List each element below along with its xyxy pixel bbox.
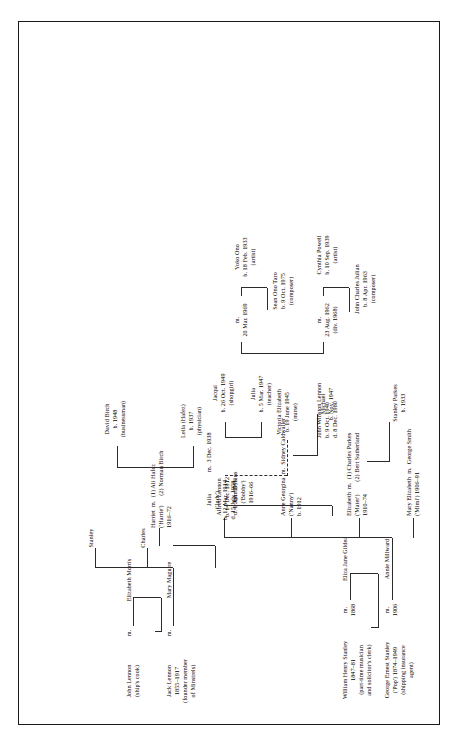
connector (241, 353, 323, 354)
person-leila-hafez: Leila (Hafez) b. 1937 (physician) (179, 390, 203, 452)
connector-sibling-spine (224, 537, 392, 538)
person-julia-birch: Julia b. 5 Mar. 1947 (teacher) (249, 364, 273, 424)
person-george-ernest-stanley: George Ernest Stanley ('Pop') 1874–1949 … (383, 622, 415, 718)
person-stanley-parkes: Stanley Parkes b. 1933 (391, 368, 407, 438)
person-mary-maguire: Mary Maguire (165, 540, 173, 620)
connector (350, 573, 378, 574)
person-annie-millward: Annie Millward (383, 522, 391, 596)
connector (241, 287, 267, 288)
connector (291, 518, 292, 538)
connector (117, 467, 193, 468)
chart-canvas: Family Tree William Henry Stanley 1847–8… (0, 0, 458, 747)
connector (371, 627, 378, 628)
connector (133, 597, 161, 598)
person-eliza-jane-gildea: Eliza Jane Gildea (341, 522, 349, 596)
connector (267, 288, 268, 310)
person-cynthia-powell: Cynthia Powell b. 10 Sep. 1939 (artist) (315, 220, 339, 290)
connector-dashed (225, 475, 287, 476)
connector (161, 598, 162, 632)
person-jacqui: Jacqui b. 26 Oct. 1949 (shopgirl) (211, 362, 235, 424)
person-sean-ono-taro: Sean Ono Taro b. 9 Oct. 1975 (composer) (271, 250, 295, 332)
person-yoko-ono: Yoko Ono b. 18 Feb. 1933 (artist) (233, 224, 257, 290)
connector (389, 422, 390, 462)
person-mary-elizabeth-smith: Mary Elizabeth m. George Smith ('Mimi') … (405, 394, 421, 516)
connector (155, 631, 161, 632)
connector (349, 288, 350, 312)
connector (173, 568, 174, 626)
connector (359, 518, 360, 538)
connector (350, 574, 351, 600)
connector (147, 548, 148, 568)
connector (323, 288, 324, 296)
person-david-birch: David Birch b. 1948 (businessman) (103, 386, 127, 452)
connector-sibling-spine (95, 567, 173, 568)
person-elizabeth-parkes: Elizabeth m. (1) Charles Parkes ('Mater'… (345, 388, 369, 516)
person-william-henry-stanley: William Henry Stanley 1847–81 (part-time… (341, 624, 373, 716)
connector (215, 546, 216, 568)
chart-border: William Henry Stanley 1847–81 (part-time… (18, 21, 440, 725)
connector (225, 437, 261, 438)
connector (293, 455, 317, 456)
connector (392, 538, 393, 600)
person-john-lennon-ship-cook: John Lennon (ship's cook) (125, 646, 141, 716)
marriage-mark-2: m. (165, 626, 173, 640)
connector (173, 545, 215, 546)
connector (133, 598, 134, 626)
connector (367, 461, 389, 462)
julia-marriage-label: m. 3 Dec. 1938 (205, 432, 213, 472)
person-stanley: Stanley (87, 514, 95, 562)
person-jack-lennon: Jack Lennon 1855–1917 (founder member of… (165, 644, 197, 718)
marriage-mark-1: m. (125, 626, 133, 640)
connector (95, 548, 96, 568)
scanned-page: Family Tree William Henry Stanley 1847–8… (0, 0, 458, 747)
connector (159, 528, 160, 546)
marriage-yoko: m. 20 Mar. 1969 (233, 294, 249, 346)
connector (413, 518, 414, 538)
connector (323, 287, 349, 288)
person-john-charles-julian: John Charles Julian b. 8 Apr. 1963 (comp… (353, 246, 377, 332)
connector (378, 574, 379, 628)
person-elizabeth-morris: Elizabeth Morris (125, 540, 133, 620)
connector (332, 506, 333, 516)
connector (225, 422, 226, 438)
connector-to-john (224, 505, 332, 506)
marriage-cynthia: m. 23 Aug. 1962 (div. 1968) (315, 294, 339, 346)
person-john-winston-lennon: John Winston Lennon b. 9 Oct. 1940 d. 8 … (315, 354, 339, 438)
marriage-1906: m. 1906 (383, 600, 399, 620)
connector (241, 288, 242, 296)
person-charles: Charles (139, 514, 147, 562)
connector (323, 342, 324, 354)
connector (241, 342, 242, 354)
person-victoria-elizabeth: Victoria Elizabeth b. 19 June 1945 (nurs… (275, 376, 299, 448)
marriage-1868: m. 1868 (341, 600, 357, 620)
connector (261, 422, 262, 438)
